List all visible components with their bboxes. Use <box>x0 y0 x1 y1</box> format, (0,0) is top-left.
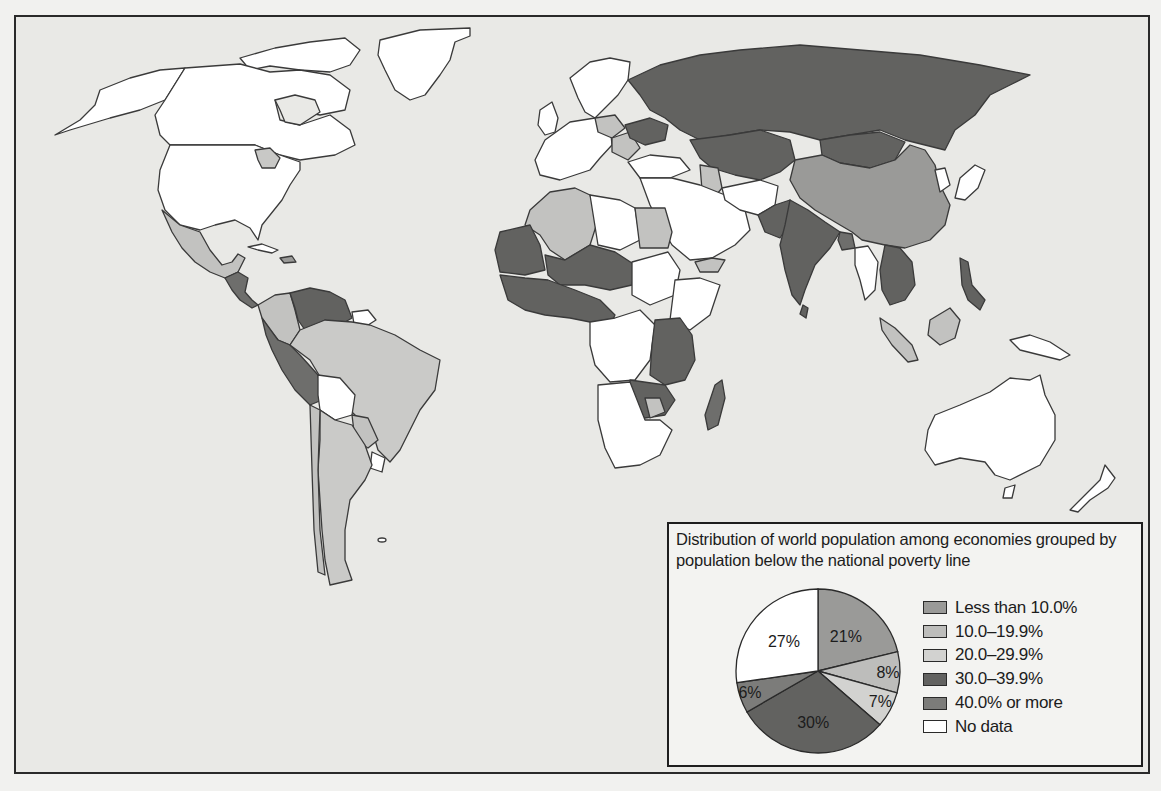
swatch-10-19 <box>923 625 947 638</box>
legend-label: No data <box>955 717 1012 737</box>
swatch-40-plus <box>923 697 947 710</box>
region-egypt <box>635 208 672 248</box>
region-bangladesh <box>838 232 855 250</box>
region-sumatra <box>880 318 918 362</box>
legend-item-10-19: 10.0–19.9% <box>923 620 1077 644</box>
region-central-america <box>225 272 258 308</box>
legend-item-less-than-10: Less than 10.0% <box>923 596 1077 620</box>
pie-slice-label: 6% <box>738 684 761 701</box>
pie-slice-label: 27% <box>768 633 800 650</box>
region-philippines <box>960 258 985 310</box>
pie-slice-label: 7% <box>869 693 892 710</box>
region-scandinavia <box>570 58 630 118</box>
region-sri-lanka <box>800 305 808 318</box>
region-falklands <box>378 538 386 542</box>
region-uk <box>538 102 558 135</box>
swatch-no-data <box>923 720 947 733</box>
region-borneo <box>928 308 960 345</box>
legend-item-30-39: 30.0–39.9% <box>923 667 1077 691</box>
legend-list: Less than 10.0% 10.0–19.9% 20.0–29.9% 30… <box>923 596 1077 739</box>
legend-box: Distribution of world population among e… <box>667 522 1143 767</box>
legend-label: 40.0% or more <box>955 693 1063 713</box>
region-central-africa <box>590 310 655 382</box>
legend-label: 30.0–39.9% <box>955 669 1043 689</box>
pie-slice-label: 21% <box>830 628 862 645</box>
region-madagascar <box>705 380 725 430</box>
legend-item-no-data: No data <box>923 715 1077 739</box>
legend-item-40-plus: 40.0% or more <box>923 691 1077 715</box>
region-australia <box>925 375 1055 480</box>
swatch-20-29 <box>923 649 947 662</box>
region-turkey <box>628 155 690 178</box>
region-new-guinea <box>1010 335 1070 360</box>
region-tasmania <box>1003 485 1015 498</box>
region-indochina <box>880 245 915 305</box>
legend-label: Less than 10.0% <box>955 598 1077 618</box>
region-hispaniola <box>280 256 296 263</box>
region-libya-north <box>590 195 640 250</box>
region-canada-islands <box>240 38 360 72</box>
pie-slice-label: 30% <box>797 714 829 731</box>
swatch-less-than-10 <box>923 601 947 614</box>
region-yemen <box>695 258 725 272</box>
legend-label: 10.0–19.9% <box>955 622 1043 642</box>
region-myanmar-thailand <box>855 246 878 300</box>
region-greenland <box>378 28 470 100</box>
region-japan <box>955 165 985 200</box>
swatch-30-39 <box>923 673 947 686</box>
region-cuba <box>248 244 278 253</box>
region-russia <box>628 45 1030 150</box>
pie-slice-label: 8% <box>876 664 899 681</box>
legend-label: 20.0–29.9% <box>955 645 1043 665</box>
legend-item-20-29: 20.0–29.9% <box>923 644 1077 668</box>
region-new-zealand <box>1070 465 1115 512</box>
